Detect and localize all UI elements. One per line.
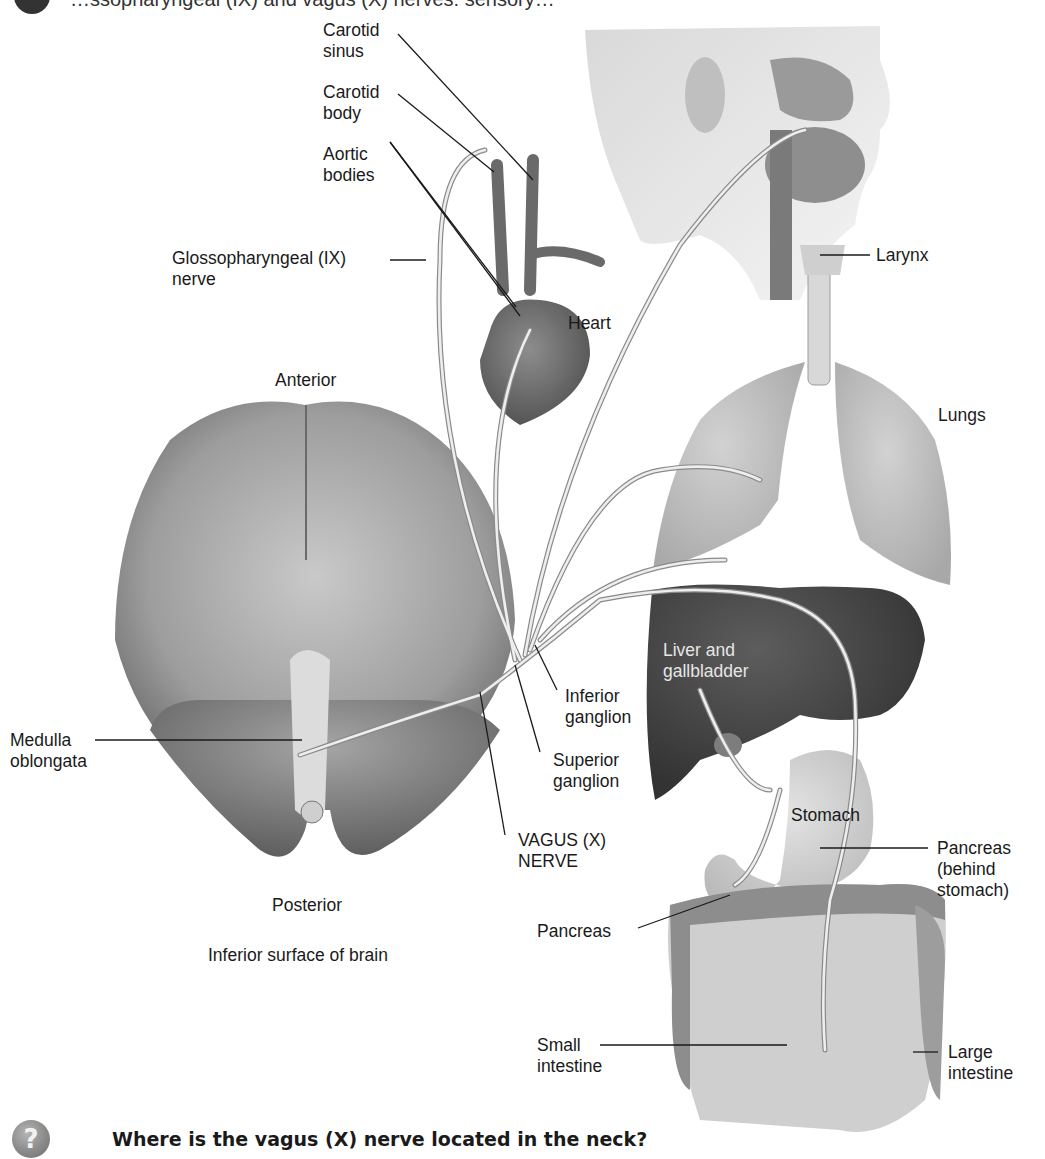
label-glossopharyngeal-nerve: Glossopharyngeal (IX)nerve — [172, 248, 346, 290]
label-small-intestine: Smallintestine — [537, 1035, 602, 1077]
head-neck-illustration — [585, 26, 890, 300]
label-anterior: Anterior — [275, 370, 336, 391]
vagus-nerve-illustration — [0, 0, 1045, 1159]
heart-illustration — [480, 160, 600, 425]
label-posterior: Posterior — [272, 895, 342, 916]
label-stomach: Stomach — [791, 805, 860, 826]
label-heart: Heart — [568, 313, 611, 334]
label-brain-caption: Inferior surface of brain — [208, 945, 388, 966]
label-aortic-bodies: Aorticbodies — [323, 144, 375, 186]
label-large-intestine: Largeintestine — [948, 1042, 1013, 1084]
label-pancreas: Pancreas — [537, 921, 611, 942]
label-liver-gallbladder: Liver andgallbladder — [663, 640, 749, 682]
label-vagus-nerve: VAGUS (X)NERVE — [518, 830, 606, 872]
label-inferior-ganglion: Inferiorganglion — [565, 686, 631, 728]
question-icon: ? — [12, 1120, 50, 1158]
figure-caption-partial: …ssopharyngeal (IX) and vagus (X) nerves… — [70, 0, 555, 11]
label-pancreas-behind-stomach: Pancreas(behindstomach) — [937, 838, 1011, 901]
label-larynx: Larynx — [876, 245, 929, 266]
label-superior-ganglion: Superiorganglion — [553, 750, 619, 792]
figure-question: Where is the vagus (X) nerve located in … — [112, 1128, 647, 1150]
label-carotid-sinus: Carotidsinus — [323, 20, 379, 62]
label-lungs: Lungs — [938, 405, 986, 426]
liver-illustration — [647, 584, 925, 800]
label-medulla-oblongata: Medullaoblongata — [10, 730, 87, 772]
lungs-illustration — [653, 245, 951, 585]
label-carotid-body: Carotidbody — [323, 82, 379, 124]
